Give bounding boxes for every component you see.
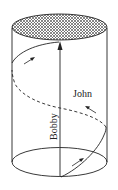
- john-arrow-icon-3-head: [30, 57, 35, 61]
- john-arrow-icon-2: [88, 108, 96, 113]
- bobby-label: Bobby: [48, 113, 59, 140]
- cylinder-bottom-face: [12, 148, 107, 177]
- john-path-front-upper: [12, 42, 59, 63]
- john-arrow-icon-3: [24, 59, 32, 64]
- john-label: John: [73, 88, 92, 99]
- john-arrow-icon-1-head: [79, 158, 84, 162]
- cylinder-diagram: John Bobby: [0, 0, 118, 190]
- cylinder-top-face: [12, 14, 107, 40]
